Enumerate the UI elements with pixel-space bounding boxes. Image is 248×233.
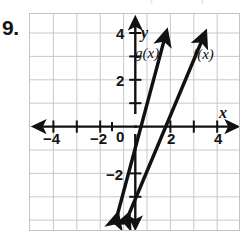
function-label-f: f(x) — [193, 46, 214, 63]
y-tick-label-4: 4 — [116, 25, 124, 42]
function-line-f — [127, 38, 204, 220]
problem-number: 9. — [2, 16, 19, 40]
x-tick-label-4: 4 — [214, 130, 222, 147]
y-tick-label-2: 2 — [116, 72, 124, 89]
x-tick-label-2: 2 — [167, 130, 175, 147]
x-tick-label-neg4: −4 — [43, 130, 60, 147]
function-label-g: g(x) — [135, 45, 159, 62]
y-tick-label-neg2: −2 — [106, 166, 123, 183]
problem-figure-page: ( ) 9. — [0, 0, 248, 233]
x-tick-label-neg2: −2 — [90, 130, 107, 147]
x-axis-title: x — [219, 104, 227, 122]
y-axis-title: y — [141, 24, 148, 42]
cropped-text-fragment: ( ) — [150, 0, 230, 4]
origin-label: 0 — [116, 128, 124, 145]
coordinate-grid-figure: −4 −2 2 4 0 4 2 −2 y x g(x) f(x) — [29, 13, 240, 231]
